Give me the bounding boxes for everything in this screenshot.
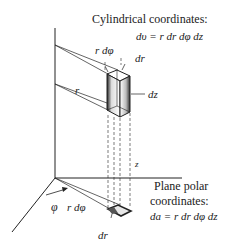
label-z: z xyxy=(135,158,139,170)
plane-polar-title-line1: Plane polar xyxy=(154,180,208,192)
x-axis xyxy=(12,178,55,232)
plane-polar-formula: da = r dr dφ dz xyxy=(150,210,218,222)
volume-element-box xyxy=(107,70,130,117)
label-dz: dz xyxy=(148,88,158,100)
cylindrical-title: Cylindrical coordinates: xyxy=(92,13,208,25)
cylindrical-formula: dυ = r dr dφ dz xyxy=(136,30,203,42)
label-dr-bottom: dr xyxy=(98,229,108,241)
plane-polar-title-line2: coordinates: xyxy=(150,195,209,207)
label-dr-top: dr xyxy=(135,52,145,64)
area-element xyxy=(108,205,131,216)
label-r-dphi-bottom: r dφ xyxy=(67,201,86,213)
label-r-dphi-top: r dφ xyxy=(95,44,114,56)
label-phi: φ xyxy=(51,201,58,213)
label-r: r xyxy=(75,84,79,96)
